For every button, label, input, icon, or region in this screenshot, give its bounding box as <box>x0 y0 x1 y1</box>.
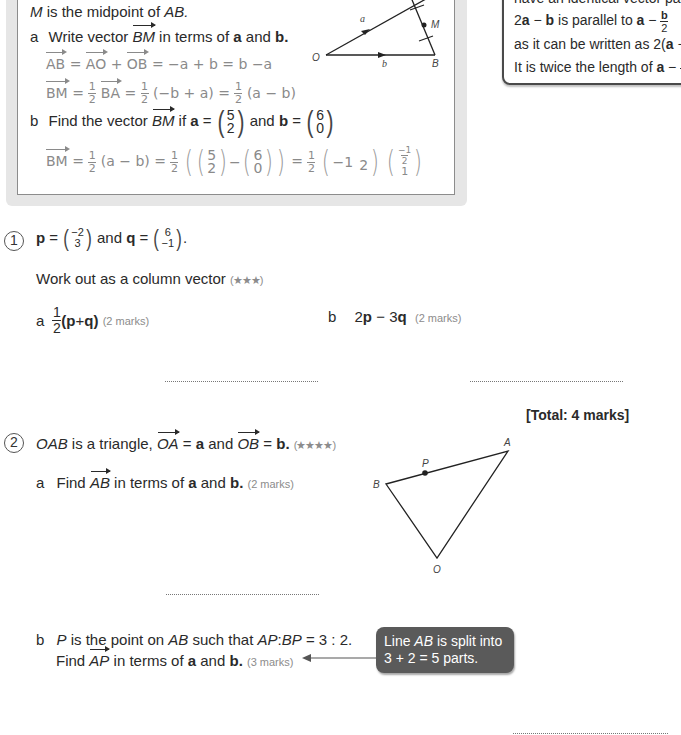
example-intro: M is the midpoint of AB. <box>30 3 188 21</box>
svg-text:P: P <box>422 458 429 469</box>
tip-line-1: have an identical vector part <box>514 0 681 7</box>
svg-text:A: A <box>503 437 511 448</box>
vector-p-value: (−23) <box>62 226 93 250</box>
svg-text:O: O <box>312 52 320 63</box>
intro-m: M <box>30 3 43 20</box>
tip-line-3: as it can be written as 2(a − <box>514 35 681 53</box>
example-part-b: b Find the vector BM if a = ( 52 ) and b… <box>30 107 335 137</box>
question-1-part-b: b 2p − 3q (2 marks) <box>328 308 461 327</box>
midpoint-m-dot <box>422 23 427 28</box>
triangle-oab-p-diagram: A B O P <box>360 430 530 580</box>
callout-line-1: Line AB is split into <box>384 633 506 650</box>
question-2-number: 2 <box>4 433 24 453</box>
callout-line-2: 3 + 2 = 5 parts. <box>384 650 506 667</box>
working-line-3: BM = 12 (a − b) = 12 ( (52) − (60) ) = 1… <box>46 146 424 178</box>
svg-text:M: M <box>431 19 440 30</box>
point-p-dot <box>422 470 428 476</box>
answer-line-2b[interactable] <box>513 733 668 734</box>
vector-bm: BM <box>132 28 155 46</box>
question-2-part-b-line-1: b P is the point on AB such that AP:BP =… <box>36 631 352 649</box>
vector-a-value: ( 52 ) <box>216 107 246 137</box>
triangle-oab-diagram: O B M a b <box>300 0 460 75</box>
question-1-part-a: a 12 (p + q) (2 marks) <box>36 306 149 335</box>
tip-line-2: 2a − b is parallel to a − b2 <box>514 10 668 33</box>
example-part-a: a Write vector BM in terms of a and b. <box>30 28 288 46</box>
svg-text:a: a <box>360 13 365 24</box>
question-2-part-b-line-2: Find AP in terms of a and b. (3 marks) <box>56 652 293 671</box>
question-1-total: [Total: 4 marks] <box>526 406 629 424</box>
vector-b-value: ( 60 ) <box>305 107 335 137</box>
working-line-2: BM = 12 BA = 12 (−b + a) = 12 (a − b) <box>46 82 296 105</box>
question-1-number: 1 <box>4 231 24 251</box>
vector-q-value: (6−1) <box>152 226 183 250</box>
question-2-part-a: a Find AB in terms of a and b. (2 marks) <box>36 474 294 493</box>
question-1-instruction: Work out as a column vector (★★★) <box>36 270 262 289</box>
answer-line-1b[interactable] <box>470 381 623 382</box>
svg-text:b: b <box>382 58 387 69</box>
svg-text:O: O <box>433 564 441 575</box>
svg-text:B: B <box>432 58 439 69</box>
difficulty-stars: (★★★★) <box>294 439 335 451</box>
answer-line-2a[interactable] <box>166 594 319 595</box>
question-1-statement: p = (−23) and q = (6−1) . <box>36 226 187 250</box>
svg-text:B: B <box>373 479 380 490</box>
callout-arrow-icon <box>300 650 380 666</box>
question-2-statement: OAB is a triangle, OA = a and OB = b. (★… <box>36 435 335 454</box>
difficulty-stars: (★★★) <box>230 274 262 286</box>
tip-line-4: It is twice the length of a − b2 <box>514 57 681 80</box>
answer-line-1a[interactable] <box>165 381 318 382</box>
working-line-1: AB = AO + OB = −a + b = b −a <box>46 56 272 72</box>
hint-callout: Line AB is split into 3 + 2 = 5 parts. <box>376 627 514 673</box>
